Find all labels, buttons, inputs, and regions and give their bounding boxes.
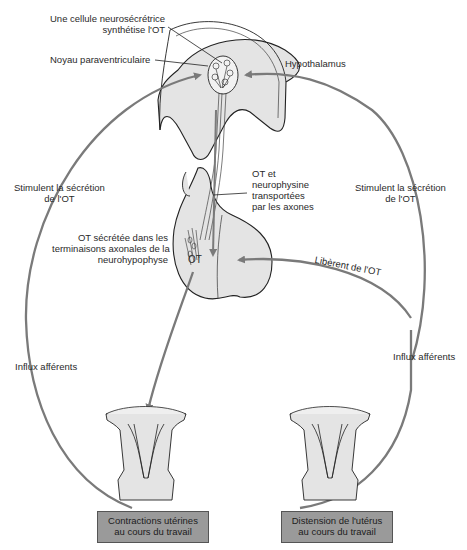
ot-marker-label: OT <box>188 254 202 265</box>
label-line: par les axones <box>252 201 314 212</box>
label-line: de l'OT <box>14 193 105 204</box>
oxytocin-reflex-diagram <box>0 0 467 550</box>
label-line: synthétise l'OT <box>50 24 165 35</box>
label-line: terminaisons axonales de la <box>52 243 168 254</box>
label-line: Une cellule neurosécrétrice <box>50 13 165 24</box>
ot-secreted-label: OT sécrétée dans les terminaisons axonal… <box>52 232 168 265</box>
box-line: au cours du travail <box>286 526 388 537</box>
label-line: transportées <box>252 190 314 201</box>
label-line: neurohypophyse <box>52 254 168 265</box>
label-line: Stimulent la sécrétion <box>14 182 105 193</box>
neurosecretory-cell-label: Une cellule neurosécrétrice synthétise l… <box>50 13 165 35</box>
label-line: de l'OT <box>355 193 446 204</box>
label-line: OT et <box>252 168 314 179</box>
axonal-transport-label: OT et neurophysine transportées par les … <box>252 168 314 212</box>
label-line: Stimulent la sécrétion <box>355 182 446 193</box>
label-line: OT sécrétée dans les <box>52 232 168 243</box>
afferent-impulses-right-label: Influx afférents <box>393 351 455 362</box>
afferent-impulses-left-label: Influx afférents <box>15 361 77 372</box>
hypothalamus-label: Hypothalamus <box>285 58 346 69</box>
box-line: Distension de l'utérus <box>286 515 388 526</box>
box-line: au cours du travail <box>102 526 204 537</box>
uterus-left <box>106 407 186 501</box>
uterus-right <box>290 407 370 501</box>
uterine-distension-box: Distension de l'utérus au cours du trava… <box>281 511 393 543</box>
paraventricular-nucleus-label: Noyau paraventriculaire <box>50 54 150 65</box>
stimulate-secretion-right-label: Stimulent la sécrétion de l'OT <box>355 182 446 204</box>
stimulate-secretion-left-label: Stimulent la sécrétion de l'OT <box>14 182 105 204</box>
label-line: neurophysine <box>252 179 314 190</box>
box-line: Contractions utérines <box>102 515 204 526</box>
uterine-contractions-box: Contractions utérines au cours du travai… <box>97 511 209 543</box>
